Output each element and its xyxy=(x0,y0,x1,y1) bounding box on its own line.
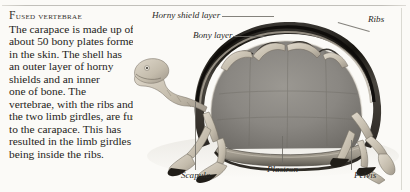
body-line: vertebrae, with the ribs and xyxy=(9,98,133,110)
label-pelvis: Pelvis xyxy=(354,170,376,180)
leader-line-bony-layer xyxy=(233,36,265,37)
label-bony-layer: Bony layer xyxy=(193,30,233,40)
article-text-column: Fused vertebrae The carapace is made up … xyxy=(9,10,133,160)
label-plastron: Plastron xyxy=(267,164,298,174)
leader-line-scapula xyxy=(195,102,196,170)
label-ribs: Ribs xyxy=(368,14,384,24)
article-body: The carapace is made up of about 50 bony… xyxy=(9,23,133,160)
right-divider-rule xyxy=(401,8,402,190)
leader-line-horny-shield-layer xyxy=(222,16,274,17)
body-line: being inside the ribs. xyxy=(9,148,133,160)
tortoise-skeleton-illustration xyxy=(133,8,401,186)
body-line: shields and an inner xyxy=(9,73,133,85)
body-line: resulted in the limb girdles xyxy=(9,135,133,147)
heading-rest: used vertebrae xyxy=(16,11,82,21)
label-horny-shield-layer: Horny shield layer xyxy=(152,10,220,20)
heading-initial: F xyxy=(9,9,16,21)
body-line: to the carapace. This has xyxy=(9,123,133,135)
label-scapula: Scapula xyxy=(181,170,210,180)
page-canvas: Fused vertebrae The carapace is made up … xyxy=(0,0,410,192)
leader-line-plastron xyxy=(282,136,283,164)
body-line: an outer layer of horny xyxy=(9,60,133,72)
body-line: about 50 bony plates formed xyxy=(9,35,133,47)
body-line: the two limb girdles, are fused xyxy=(9,110,133,122)
section-heading: Fused vertebrae xyxy=(9,10,133,22)
top-divider-rule xyxy=(2,5,406,6)
leader-line-pelvis xyxy=(351,140,352,170)
body-line: one of bone. The xyxy=(9,85,133,97)
body-line: The carapace is made up of xyxy=(9,23,133,35)
body-line: in the skin. The shell has xyxy=(9,48,133,60)
